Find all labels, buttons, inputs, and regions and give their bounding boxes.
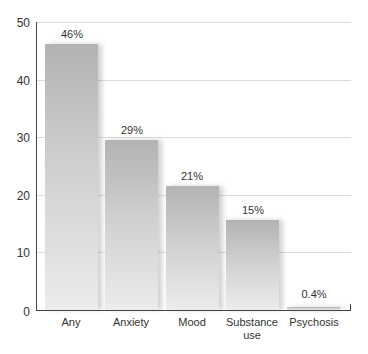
- y-tick-50: 50: [8, 17, 30, 29]
- value-label-anxiety: 29%: [102, 124, 162, 136]
- value-label-substance-use: 15%: [223, 204, 283, 216]
- y-axis: [36, 22, 37, 311]
- bar-substance-use: [226, 220, 279, 310]
- bar-any: [45, 44, 98, 310]
- bar-mood: [166, 186, 219, 310]
- x-label-anxiety: Anxiety: [96, 316, 166, 329]
- x-label-psychosis: Psychosis: [279, 316, 349, 329]
- value-label-mood: 21%: [162, 170, 222, 182]
- gridline-50: [37, 22, 351, 23]
- y-tick-0: 0: [8, 306, 30, 318]
- y-tick-20: 20: [8, 190, 30, 202]
- x-axis: [36, 310, 351, 311]
- x-label-substance-use: Substance use: [217, 316, 287, 342]
- value-label-psychosis: 0.4%: [284, 288, 344, 300]
- y-tick-40: 40: [8, 75, 30, 87]
- y-tick-30: 30: [8, 132, 30, 144]
- bar-chart: 50 40 30 20 10 0 46% 29% 21% 15% 0.4% An…: [0, 0, 368, 354]
- value-label-any: 46%: [42, 28, 102, 40]
- bar-anxiety: [105, 140, 158, 310]
- x-axis-end-tick: [350, 304, 351, 311]
- y-tick-10: 10: [8, 247, 30, 259]
